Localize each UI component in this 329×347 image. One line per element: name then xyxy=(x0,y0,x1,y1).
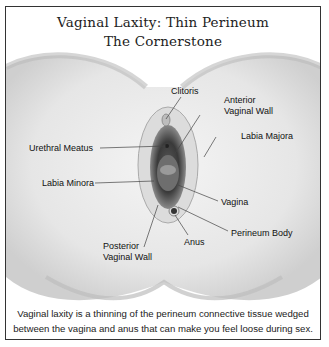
label-labia-majora: Labia Majora xyxy=(241,131,293,142)
label-anterior-vaginal-wall-2: Vaginal Wall xyxy=(224,106,273,117)
caption-line-2: between the vagina and anus that can mak… xyxy=(6,321,320,336)
label-urethral-meatus: Urethral Meatus xyxy=(29,143,93,154)
label-labia-minora: Labia Minora xyxy=(42,178,94,189)
title-line-2: The Cornerstone xyxy=(6,32,320,51)
figure-caption: Vaginal laxity is a thinning of the peri… xyxy=(6,306,320,336)
label-posterior-vaginal-wall-1: Posterior xyxy=(103,241,139,252)
figure-frame: Vaginal Laxity: Thin Perineum The Corner… xyxy=(5,6,321,340)
title-line-1: Vaginal Laxity: Thin Perineum xyxy=(6,13,320,32)
label-anterior-vaginal-wall-1: Anterior xyxy=(224,95,256,106)
anatomical-illustration xyxy=(6,7,321,340)
label-perineum-body: Perineum Body xyxy=(231,228,293,239)
figure-title: Vaginal Laxity: Thin Perineum The Corner… xyxy=(6,13,320,51)
label-clitoris: Clitoris xyxy=(171,86,199,97)
caption-line-1: Vaginal laxity is a thinning of the peri… xyxy=(6,306,320,321)
label-anus: Anus xyxy=(184,237,205,248)
label-posterior-vaginal-wall-2: Vaginal Wall xyxy=(103,252,152,263)
label-vagina: Vagina xyxy=(221,197,248,208)
